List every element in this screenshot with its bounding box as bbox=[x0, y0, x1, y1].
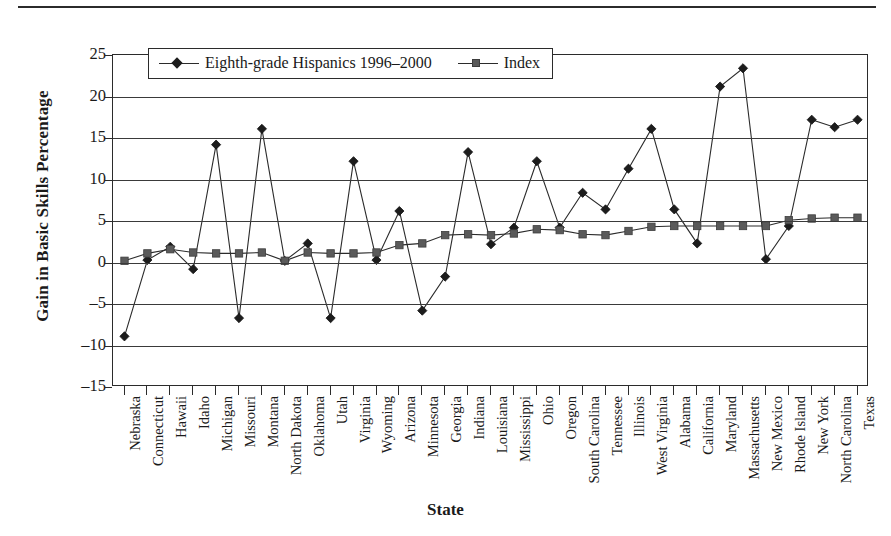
square-marker-icon bbox=[762, 222, 769, 229]
x-tick-mark bbox=[215, 386, 216, 395]
x-tick-label: Mississippi bbox=[518, 396, 533, 516]
plot-area bbox=[112, 54, 868, 386]
x-tick-label: Wyoming bbox=[380, 396, 395, 516]
diamond-marker-icon bbox=[441, 272, 450, 281]
square-marker-icon bbox=[510, 230, 517, 237]
x-tick-mark bbox=[398, 386, 399, 395]
square-marker-icon bbox=[350, 250, 357, 257]
x-tick-mark bbox=[238, 386, 239, 395]
y-tick-mark bbox=[105, 55, 112, 56]
x-tick-mark bbox=[536, 386, 537, 395]
y-tick-label: 0 bbox=[60, 254, 106, 271]
square-marker-icon bbox=[235, 250, 242, 257]
x-tick-label: Missouri bbox=[243, 396, 258, 516]
x-tick-label: West Virginia bbox=[655, 396, 670, 516]
y-tick-mark bbox=[105, 387, 112, 388]
diamond-marker-icon bbox=[486, 240, 495, 249]
square-marker-icon bbox=[396, 241, 403, 248]
x-tick-mark bbox=[421, 386, 422, 395]
diamond-marker-icon bbox=[171, 57, 182, 68]
x-tick-mark bbox=[169, 386, 170, 395]
gridline bbox=[113, 97, 867, 98]
square-marker-icon bbox=[144, 250, 151, 257]
x-tick-mark bbox=[696, 386, 697, 395]
square-marker-icon bbox=[671, 222, 678, 229]
x-tick-mark bbox=[811, 386, 812, 395]
x-tick-label: Ohio bbox=[541, 396, 556, 516]
x-tick-mark bbox=[742, 386, 743, 395]
x-tick-label: North Dakota bbox=[289, 396, 304, 516]
x-tick-mark bbox=[146, 386, 147, 395]
square-marker-icon bbox=[464, 231, 471, 238]
x-tick-label: Idaho bbox=[197, 396, 212, 516]
diamond-marker-icon bbox=[853, 115, 862, 124]
x-tick-label: Tennessee bbox=[610, 396, 625, 516]
y-tick-label: 5 bbox=[60, 212, 106, 229]
x-tick-label: Hawaii bbox=[174, 396, 189, 516]
x-tick-mark bbox=[857, 386, 858, 395]
x-axis-ticks bbox=[112, 386, 868, 396]
x-tick-label: Maryland bbox=[724, 396, 739, 516]
diamond-marker-icon bbox=[601, 205, 610, 214]
legend-label-hispanics: Eighth-grade Hispanics 1996–2000 bbox=[205, 54, 432, 72]
square-marker-icon bbox=[556, 226, 563, 233]
y-tick-mark bbox=[105, 221, 112, 222]
x-tick-label: Michigan bbox=[220, 396, 235, 516]
y-tick-label: –10 bbox=[60, 337, 106, 354]
square-marker-icon bbox=[694, 222, 701, 229]
y-tick-mark bbox=[105, 138, 112, 139]
x-tick-label: Montana bbox=[266, 396, 281, 516]
legend-item-index: Index bbox=[458, 54, 540, 72]
y-tick-mark bbox=[105, 97, 112, 98]
legend-item-hispanics: Eighth-grade Hispanics 1996–2000 bbox=[159, 54, 432, 72]
square-marker-icon bbox=[533, 226, 540, 233]
diamond-marker-icon bbox=[830, 123, 839, 132]
chart-legend: Eighth-grade Hispanics 1996–2000 Index bbox=[148, 48, 553, 79]
diamond-marker-icon bbox=[349, 157, 358, 166]
diamond-marker-icon bbox=[624, 164, 633, 173]
y-tick-label: 10 bbox=[60, 171, 106, 188]
x-tick-label: Oregon bbox=[564, 396, 579, 516]
x-tick-mark bbox=[582, 386, 583, 395]
x-tick-mark bbox=[628, 386, 629, 395]
legend-label-index: Index bbox=[504, 54, 540, 72]
x-tick-label: Utah bbox=[335, 396, 350, 516]
diamond-marker-icon bbox=[326, 314, 335, 323]
square-marker-icon bbox=[373, 249, 380, 256]
x-tick-mark bbox=[719, 386, 720, 395]
x-tick-label: South Carolina bbox=[587, 396, 602, 516]
square-marker-icon bbox=[716, 222, 723, 229]
x-tick-mark bbox=[192, 386, 193, 395]
square-marker-icon bbox=[190, 249, 197, 256]
diamond-marker-icon bbox=[234, 314, 243, 323]
square-marker-icon bbox=[212, 250, 219, 257]
square-marker-icon bbox=[167, 246, 174, 253]
square-marker-icon bbox=[739, 222, 746, 229]
y-axis-ticks: 2520151050–5–10–15 bbox=[50, 54, 106, 386]
y-tick-mark bbox=[105, 180, 112, 181]
diamond-marker-icon bbox=[211, 140, 220, 149]
x-tick-mark bbox=[673, 386, 674, 395]
x-tick-mark bbox=[559, 386, 560, 395]
x-tick-label: Massachusetts bbox=[747, 396, 762, 516]
x-tick-label: Arizona bbox=[403, 396, 418, 516]
y-tick-mark bbox=[105, 304, 112, 305]
diamond-marker-icon bbox=[532, 157, 541, 166]
y-tick-label: 20 bbox=[60, 88, 106, 105]
square-marker-icon bbox=[327, 250, 334, 257]
diamond-marker-icon bbox=[807, 115, 816, 124]
x-tick-label: Rhode Island bbox=[793, 396, 808, 516]
gridline bbox=[113, 304, 867, 305]
x-tick-mark bbox=[605, 386, 606, 395]
y-tick-label: –5 bbox=[60, 295, 106, 312]
x-tick-mark bbox=[261, 386, 262, 395]
y-tick-mark bbox=[105, 263, 112, 264]
square-marker-icon bbox=[442, 231, 449, 238]
x-tick-label: Nebraska bbox=[128, 396, 143, 516]
square-marker-icon bbox=[648, 223, 655, 230]
x-tick-label: Texas bbox=[862, 396, 877, 516]
gridline bbox=[113, 263, 867, 264]
chart-page: Gain in Basic Skills Percentage 25201510… bbox=[0, 0, 891, 536]
x-tick-mark bbox=[467, 386, 468, 395]
x-tick-label: North Carolina bbox=[839, 396, 854, 516]
